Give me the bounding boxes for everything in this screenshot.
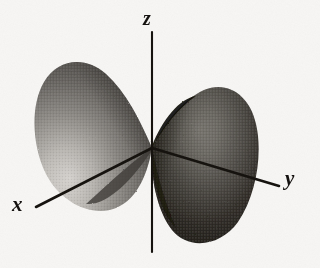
- axis-label-x: x: [12, 194, 23, 215]
- orbital-canvas: [0, 0, 320, 268]
- orbital-figure: x y z: [0, 0, 320, 268]
- axis-label-y: y: [285, 168, 294, 189]
- axis-label-z: z: [143, 8, 151, 28]
